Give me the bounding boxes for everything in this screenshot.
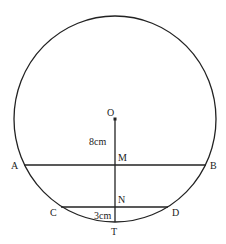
label-t: T (111, 226, 117, 237)
label-m: M (118, 152, 127, 163)
label-a: A (11, 160, 19, 171)
measure-nt: 3cm (94, 210, 111, 221)
label-n: N (118, 194, 125, 205)
label-c: C (50, 207, 57, 218)
measure-om: 8cm (89, 136, 106, 147)
label-d: D (172, 207, 179, 218)
circle-chord-diagram: O A B M N C D T 8cm 3cm (0, 0, 226, 244)
label-o: O (107, 107, 114, 118)
label-b: B (210, 160, 217, 171)
